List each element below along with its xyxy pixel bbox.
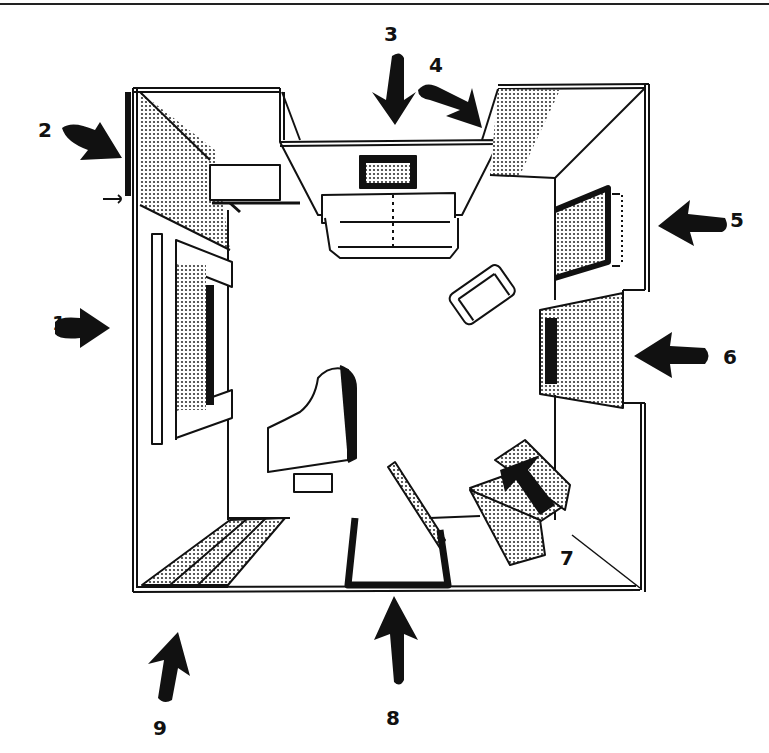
room-diagram bbox=[0, 0, 769, 753]
callout-label-9: 9 bbox=[153, 718, 167, 738]
callout-label-6: 6 bbox=[723, 347, 737, 367]
callout-label-8: 8 bbox=[386, 708, 400, 728]
arrow-4 bbox=[418, 84, 482, 128]
arrow-5 bbox=[658, 200, 727, 246]
callout-label-1: 1 bbox=[52, 313, 66, 333]
arrow-2 bbox=[62, 122, 122, 160]
callout-label-4: 4 bbox=[429, 55, 443, 75]
callout-label-7: 7 bbox=[560, 548, 574, 568]
arrow-8 bbox=[374, 596, 418, 685]
callout-label-3: 3 bbox=[384, 24, 398, 44]
arrow-6 bbox=[634, 332, 709, 378]
callout-label-5: 5 bbox=[730, 210, 744, 230]
arrow-9 bbox=[148, 632, 190, 702]
callout-label-2: 2 bbox=[38, 120, 52, 140]
arrow-3 bbox=[372, 53, 416, 125]
